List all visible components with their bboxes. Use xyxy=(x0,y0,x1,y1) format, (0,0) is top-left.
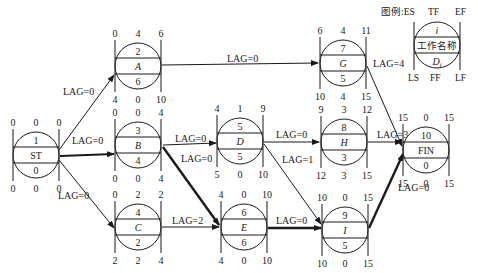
node-name: FIN xyxy=(418,145,434,156)
legend-tf: TF xyxy=(428,7,439,17)
node-number: 7 xyxy=(341,43,346,54)
node-ef: 9 xyxy=(261,103,266,114)
lag-label-a-g: LAG=0 xyxy=(227,53,258,64)
node-number: 4 xyxy=(136,207,141,218)
node-ff: 0 xyxy=(136,173,141,184)
node-number: 1 xyxy=(34,135,39,146)
lag-label-h-fin: LAG=3 xyxy=(377,129,408,140)
node-tf: 4 xyxy=(136,28,141,39)
node-ff: 0 xyxy=(34,183,39,194)
lag-label-g-fin: LAG=4 xyxy=(373,58,404,69)
node-d: 5D54195010 xyxy=(215,103,269,180)
network-diagram: LAG=0 LAG=0 LAG=0 LAG=0 LAG=0 LAG=0 LAG=… xyxy=(0,0,478,273)
node-i: 9I51001510015 xyxy=(317,192,373,269)
node-ls: 10 xyxy=(315,91,325,102)
node-tf: 0 xyxy=(343,192,348,203)
node-g: 7G5641110415 xyxy=(315,25,371,102)
node-ls: 15 xyxy=(398,178,408,189)
edge-st-b xyxy=(60,154,114,156)
node-es: 6 xyxy=(318,25,323,36)
node-lf: 10 xyxy=(156,94,166,105)
node-lf: 15 xyxy=(362,170,372,181)
node-lf: 15 xyxy=(361,91,371,102)
node-ef: 15 xyxy=(363,192,373,203)
node-number: 2 xyxy=(136,46,141,57)
node-es: 0 xyxy=(113,107,118,118)
node-name: H xyxy=(339,137,348,148)
node-name: A xyxy=(134,61,142,72)
node-ef: 0 xyxy=(57,117,62,128)
node-ef: 15 xyxy=(444,112,454,123)
node-lf: 0 xyxy=(57,183,62,194)
lag-label-c-e: LAG=2 xyxy=(172,215,203,226)
node-name: D xyxy=(235,136,244,147)
node-duration: 5 xyxy=(341,73,346,84)
node-ls: 0 xyxy=(113,173,118,184)
node-ff: 0 xyxy=(424,178,429,189)
node-a: 2A60464010 xyxy=(113,28,167,105)
node-duration: 0 xyxy=(424,160,429,171)
node-name: E xyxy=(240,222,247,233)
node-es: 4 xyxy=(215,103,220,114)
node-duration: 5 xyxy=(343,240,348,251)
node-ef: 10 xyxy=(262,189,272,200)
node-es: 0 xyxy=(11,117,16,128)
node-tf: 0 xyxy=(242,189,247,200)
node-ls: 10 xyxy=(317,258,327,269)
node-b: 3B4004004 xyxy=(113,107,164,184)
lag-label-d-i: LAG=1 xyxy=(282,154,313,165)
legend-i: i xyxy=(436,25,439,36)
node-es: 10 xyxy=(317,192,327,203)
node-lf: 4 xyxy=(159,255,164,266)
node-ff: 4 xyxy=(341,91,346,102)
lag-label-st-a: LAG=0 xyxy=(63,86,94,97)
node-es: 0 xyxy=(113,28,118,39)
node-duration: 5 xyxy=(238,151,243,162)
node-number: 9 xyxy=(343,210,348,221)
node-ls: 5 xyxy=(215,169,220,180)
node-duration: 2 xyxy=(136,237,141,248)
legend-lf: LF xyxy=(455,73,466,83)
node-e: 6E640104010 xyxy=(219,189,273,266)
node-number: 10 xyxy=(421,130,431,141)
node-ef: 2 xyxy=(159,189,164,200)
node-es: 4 xyxy=(219,189,224,200)
node-tf: 0 xyxy=(34,117,39,128)
legend: 图例:ES TF EF i 工作名称 Di LS FF LF xyxy=(381,6,466,83)
node-ff: 0 xyxy=(238,169,243,180)
node-ef: 6 xyxy=(159,28,164,39)
node-tf: 1 xyxy=(238,103,243,114)
node-duration: 3 xyxy=(342,152,347,163)
node-name: G xyxy=(339,58,346,69)
lag-label-b-e: LAG=0 xyxy=(181,153,212,164)
node-lf: 4 xyxy=(159,173,164,184)
node-es: 15 xyxy=(398,112,408,123)
node-ls: 0 xyxy=(11,183,16,194)
lag-label-e-i: LAG=0 xyxy=(276,215,307,226)
node-h: 8H3931212315 xyxy=(316,104,372,181)
node-ff: 0 xyxy=(343,258,348,269)
node-lf: 15 xyxy=(363,258,373,269)
legend-ff: FF xyxy=(430,73,441,83)
legend-title: 图例:ES xyxy=(381,6,415,17)
lag-label-st-b: LAG=0 xyxy=(72,135,103,146)
node-lf: 15 xyxy=(444,178,454,189)
node-ls: 4 xyxy=(219,255,224,266)
lag-label-st-c: LAG=0 xyxy=(58,190,89,201)
node-tf: 4 xyxy=(341,25,346,36)
node-es: 9 xyxy=(319,104,324,115)
node-ef: 11 xyxy=(361,25,371,36)
legend-work-name: 工作名称 xyxy=(417,40,457,51)
node-st: 1ST0000000 xyxy=(11,117,62,194)
node-es: 0 xyxy=(113,189,118,200)
node-tf: 3 xyxy=(342,104,347,115)
node-ff: 0 xyxy=(136,94,141,105)
node-number: 6 xyxy=(242,207,247,218)
node-lf: 10 xyxy=(262,255,272,266)
legend-duration: Di xyxy=(431,56,441,69)
node-lf: 10 xyxy=(258,169,268,180)
legend-ls: LS xyxy=(408,73,419,83)
node-number: 3 xyxy=(136,125,141,136)
node-fin: 10FIN01501515015 xyxy=(398,112,454,189)
node-duration: 4 xyxy=(136,155,141,166)
